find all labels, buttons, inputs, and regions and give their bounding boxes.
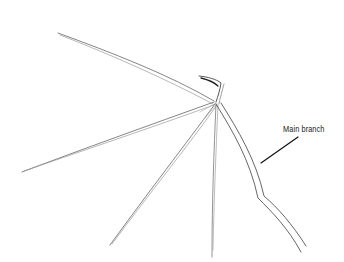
spoke-lower-left: [110, 104, 217, 245]
spoke-upper-long: [58, 33, 214, 104]
label-pointer-line: [261, 137, 298, 163]
diagram-canvas: Main branch: [0, 0, 344, 262]
spoke-left: [22, 102, 214, 172]
main-branch-label: Main branch: [283, 124, 325, 134]
spoke-vertical: [212, 104, 218, 257]
